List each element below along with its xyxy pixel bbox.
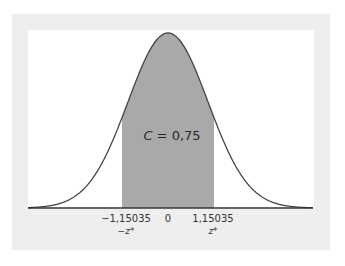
tick-label-upper: 1,15035 z* (192, 213, 233, 237)
confidence-variable: C (143, 128, 152, 143)
tick-value-center: 0 (165, 213, 171, 225)
equals-sign: = (152, 128, 171, 143)
confidence-level-label: C = 0,75 (143, 128, 200, 143)
tick-label-center: 0 (165, 213, 171, 225)
tick-value-lower: −1,15035 (101, 213, 151, 225)
tick-label-lower: −1,15035 −z* (101, 213, 151, 237)
shaded-confidence-region (122, 33, 214, 208)
tick-sublabel-lower: −z* (101, 225, 151, 237)
tick-value-upper: 1,15035 (192, 213, 233, 225)
confidence-value: 0,75 (172, 128, 201, 143)
tick-sublabel-upper: z* (192, 225, 233, 237)
